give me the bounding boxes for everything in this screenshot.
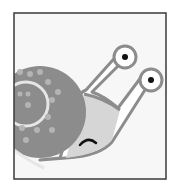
eye-left bbox=[114, 46, 136, 68]
eye-right bbox=[140, 69, 162, 91]
snail-icon bbox=[0, 0, 176, 185]
snail-illustration bbox=[0, 0, 176, 185]
pupil-right bbox=[148, 77, 154, 83]
pupil-left bbox=[122, 54, 128, 60]
